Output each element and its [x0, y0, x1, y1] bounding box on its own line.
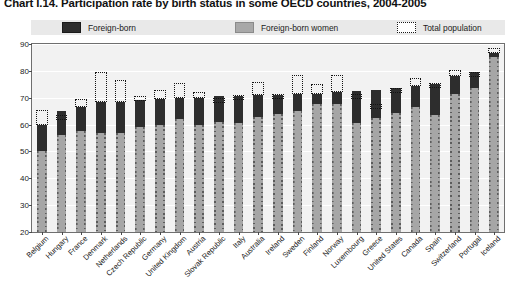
- legend-item-total-population: Total population: [397, 20, 482, 35]
- marker-total-population: [331, 75, 343, 92]
- bar-group: [352, 44, 362, 232]
- bar-foreign-born-women: [194, 125, 204, 232]
- bar-foreign-born-women: [450, 94, 460, 232]
- bar-group: [253, 44, 263, 232]
- bar-foreign-born-women: [253, 117, 263, 232]
- bar-foreign-born-women: [352, 123, 362, 232]
- bar-group: [96, 44, 106, 232]
- dotted-square-icon: [397, 22, 416, 33]
- y-axis-tick-label: 40: [9, 174, 29, 183]
- bar-group: [273, 44, 283, 232]
- bar-foreign-born-women: [391, 113, 401, 233]
- bar-group: [332, 44, 342, 232]
- bar-foreign-born-women: [312, 104, 322, 232]
- gray-square-icon: [235, 22, 254, 33]
- marker-total-population: [410, 78, 422, 86]
- bar-group: [57, 44, 67, 232]
- bar-foreign-born-women: [489, 57, 499, 232]
- marker-total-population: [75, 99, 87, 107]
- bar-group: [312, 44, 322, 232]
- marker-total-population: [56, 115, 68, 120]
- marker-total-population: [36, 110, 48, 125]
- bar-group: [430, 44, 440, 232]
- marker-total-population: [469, 72, 481, 77]
- marker-total-population: [193, 92, 205, 97]
- bar-foreign-born-women: [135, 127, 145, 232]
- bar-foreign-born-women: [175, 119, 185, 232]
- bar-foreign-born-women: [411, 107, 421, 232]
- chart-title: Chart I.14. Participation rate by birth …: [4, 0, 512, 9]
- bar-group: [293, 44, 303, 232]
- bar-series-container: [32, 44, 504, 232]
- y-axis-tick-label: 50: [9, 147, 29, 156]
- marker-total-population: [449, 70, 461, 77]
- bar-group: [234, 44, 244, 232]
- bar-foreign-born-women: [430, 115, 440, 232]
- y-axis-tick-label: 30: [9, 201, 29, 210]
- bar-group: [214, 44, 224, 232]
- bar-foreign-born-women: [116, 133, 126, 232]
- bar-group: [135, 44, 145, 232]
- bar-foreign-born-women: [57, 135, 67, 232]
- y-axis-tick-label: 20: [9, 228, 29, 237]
- bar-group: [37, 44, 47, 232]
- y-axis-tick-label: 60: [9, 120, 29, 129]
- plot-area: 2030405060708090: [31, 43, 505, 233]
- x-axis-labels: BelgiumHungaryFranceDenmarkNetherlandsCz…: [31, 234, 505, 294]
- legend-item-foreign-born-women: Foreign-born women: [235, 20, 338, 35]
- bar-foreign-born-women: [76, 131, 86, 232]
- chart-figure: Chart I.14. Participation rate by birth …: [0, 0, 514, 294]
- bar-group: [175, 44, 185, 232]
- marker-total-population: [390, 88, 402, 93]
- legend-label: Foreign-born: [88, 23, 136, 33]
- marker-total-population: [429, 83, 441, 88]
- bar-foreign-born-women: [214, 122, 224, 232]
- bar-foreign-born-women: [273, 114, 283, 232]
- bar-foreign-born-women: [234, 123, 244, 232]
- bar-group: [470, 44, 480, 232]
- bar-foreign-born-women: [37, 151, 47, 232]
- x-axis-label-iceland: Iceland: [479, 234, 503, 258]
- marker-total-population: [233, 95, 245, 100]
- bar-foreign-born-women: [155, 125, 165, 232]
- bar-foreign-born-women: [293, 111, 303, 232]
- x-axis-label-finland: Finland: [302, 234, 326, 258]
- legend-item-foreign-born: Foreign-born: [62, 20, 136, 35]
- bar-group: [76, 44, 86, 232]
- bar-group: [371, 44, 381, 232]
- y-axis-tick-mark: [29, 232, 32, 233]
- bar-group: [391, 44, 401, 232]
- legend-label: Total population: [423, 23, 482, 33]
- marker-total-population: [311, 84, 323, 93]
- bar-group: [194, 44, 204, 232]
- bar-group: [489, 44, 499, 232]
- marker-total-population: [488, 48, 500, 53]
- marker-total-population: [351, 94, 363, 99]
- marker-total-population: [95, 72, 107, 102]
- marker-total-population: [174, 83, 186, 98]
- dark-square-icon: [62, 22, 81, 33]
- marker-total-population: [213, 98, 225, 103]
- marker-total-population: [370, 104, 382, 109]
- bar-foreign-born-women: [332, 104, 342, 232]
- bar-group: [450, 44, 460, 232]
- legend-label: Foreign-born women: [261, 23, 338, 33]
- bar-group: [116, 44, 126, 232]
- marker-total-population: [115, 80, 127, 101]
- bar-foreign-born-women: [96, 133, 106, 232]
- bar-foreign-born-women: [371, 118, 381, 232]
- marker-total-population: [292, 75, 304, 94]
- bar-foreign-born-women: [470, 88, 480, 232]
- y-axis-tick-label: 90: [9, 40, 29, 49]
- marker-total-population: [154, 90, 166, 99]
- marker-total-population: [272, 94, 284, 99]
- bar-group: [155, 44, 165, 232]
- bar-group: [411, 44, 421, 232]
- marker-total-population: [134, 96, 146, 101]
- y-axis-tick-label: 70: [9, 93, 29, 102]
- chart-legend: Foreign-born Foreign-born women Total po…: [31, 20, 505, 35]
- y-axis-tick-label: 80: [9, 66, 29, 75]
- marker-total-population: [252, 82, 264, 95]
